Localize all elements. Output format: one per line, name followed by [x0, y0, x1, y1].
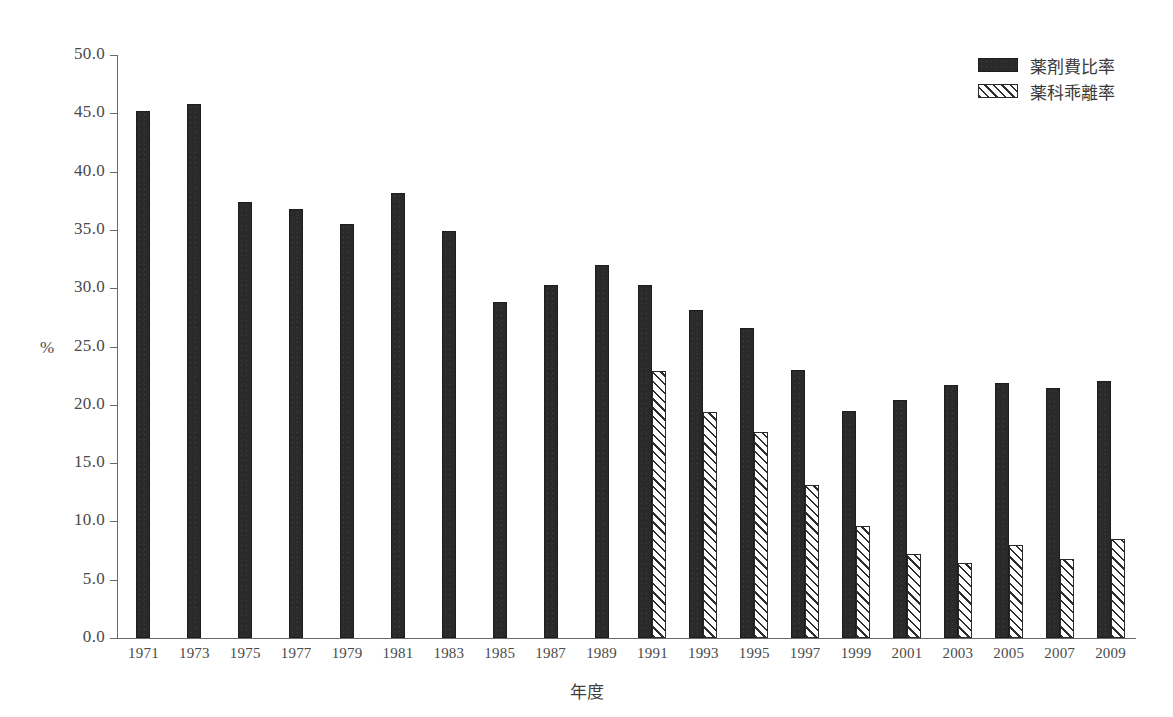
y-tick-mark	[110, 172, 117, 173]
bar-drug-cost-ratio	[944, 385, 958, 638]
legend-item-0: 薬剤費比率	[978, 52, 1168, 78]
bar-drug-cost-ratio	[391, 193, 405, 638]
y-tick-label: 45.0	[55, 102, 105, 122]
bar-drug-cost-ratio	[638, 285, 652, 638]
bar-drug-cost-ratio	[842, 411, 856, 638]
bar-drug-cost-ratio	[493, 302, 507, 638]
bar-drug-cost-ratio	[442, 231, 456, 638]
y-tick-mark	[110, 230, 117, 231]
bar-drug-cost-ratio	[689, 310, 703, 638]
y-tick-label: 25.0	[55, 336, 105, 356]
bars-layer	[118, 55, 1136, 638]
legend-item-1: 薬科乖離率	[978, 78, 1168, 104]
y-axis-title: %	[40, 338, 54, 358]
y-tick-label: 35.0	[55, 219, 105, 239]
y-tick-mark	[110, 55, 117, 56]
bar-drug-cost-ratio	[1097, 381, 1111, 638]
bar-price-divergence-rate	[652, 371, 666, 638]
bar-drug-cost-ratio	[340, 224, 354, 638]
y-tick-label: 50.0	[55, 44, 105, 64]
y-tick-label: 15.0	[55, 452, 105, 472]
y-tick-mark	[110, 463, 117, 464]
y-tick-mark	[110, 113, 117, 114]
bar-drug-cost-ratio	[791, 370, 805, 638]
y-tick-label: 30.0	[55, 277, 105, 297]
bar-drug-cost-ratio	[740, 328, 754, 638]
legend-swatch-solid-icon	[978, 58, 1018, 72]
bar-drug-cost-ratio	[893, 400, 907, 638]
x-tick-label: 2009	[1081, 645, 1141, 662]
bar-drug-cost-ratio	[544, 285, 558, 638]
bar-drug-cost-ratio	[595, 265, 609, 638]
y-tick-mark	[110, 405, 117, 406]
bar-drug-cost-ratio	[136, 111, 150, 638]
bar-price-divergence-rate	[856, 526, 870, 638]
bar-price-divergence-rate	[907, 554, 921, 638]
legend-swatch-hatched-icon	[978, 84, 1018, 98]
legend-label-1: 薬科乖離率	[1030, 79, 1115, 104]
bar-drug-cost-ratio	[238, 202, 252, 638]
legend-label-0: 薬剤費比率	[1030, 53, 1115, 78]
bar-price-divergence-rate	[754, 432, 768, 638]
bar-drug-cost-ratio	[187, 104, 201, 638]
bar-price-divergence-rate	[1060, 559, 1074, 638]
y-tick-mark	[110, 288, 117, 289]
bar-price-divergence-rate	[1111, 539, 1125, 638]
bar-price-divergence-rate	[703, 412, 717, 638]
y-tick-label: 10.0	[55, 510, 105, 530]
legend: 薬剤費比率 薬科乖離率	[978, 52, 1168, 104]
x-axis-title: 年度	[0, 678, 1173, 703]
y-tick-mark	[110, 347, 117, 348]
bar-price-divergence-rate	[958, 563, 972, 638]
y-tick-label: 40.0	[55, 161, 105, 181]
bar-chart: % 0.05.010.015.020.025.030.035.040.045.0…	[0, 0, 1173, 717]
bar-price-divergence-rate	[1009, 545, 1023, 638]
y-tick-label: 0.0	[55, 627, 105, 647]
y-tick-mark	[110, 521, 117, 522]
y-tick-label: 20.0	[55, 394, 105, 414]
y-tick-label: 5.0	[55, 569, 105, 589]
y-tick-mark	[110, 580, 117, 581]
y-tick-mark	[110, 638, 117, 639]
bar-price-divergence-rate	[805, 485, 819, 638]
bar-drug-cost-ratio	[1046, 388, 1060, 638]
bar-drug-cost-ratio	[995, 383, 1009, 638]
bar-drug-cost-ratio	[289, 209, 303, 638]
x-axis-line	[117, 638, 1136, 639]
